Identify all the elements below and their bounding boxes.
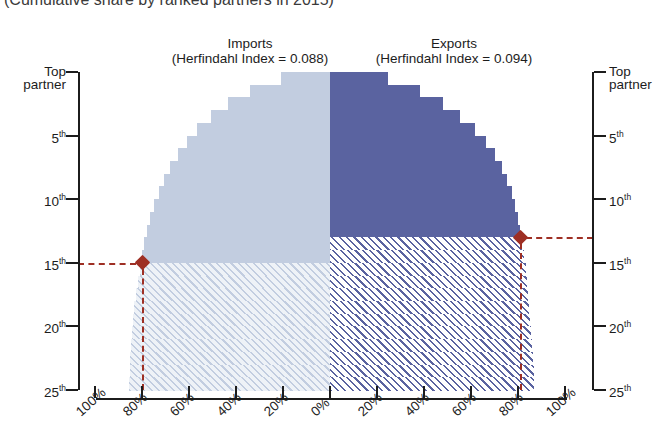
bar-exports-rank-6 — [330, 136, 486, 149]
right-y-tick — [594, 135, 606, 137]
bar-imports-rank-7 — [178, 148, 330, 161]
right-y-tick — [594, 71, 606, 73]
left-y-label-top-partner: Toppartner — [8, 66, 66, 91]
chart-figure: (Cumulative share by ranked partners in … — [0, 0, 672, 448]
bar-imports-rank-11 — [154, 199, 330, 212]
exports-panel-name: Exports — [336, 36, 572, 51]
bar-exports-rank-17 — [330, 276, 527, 289]
bar-imports-rank-4 — [211, 110, 330, 123]
x-label-20pct: 20% — [355, 390, 385, 419]
bar-exports-rank-19 — [330, 301, 529, 314]
bar-imports-rank-14 — [144, 237, 330, 250]
bar-exports-rank-4 — [330, 110, 460, 123]
x-label-40pct: 40% — [214, 390, 244, 419]
bar-imports-rank-23 — [130, 352, 330, 365]
imports-panel-name: Imports — [140, 36, 360, 51]
bar-exports-rank-20 — [330, 314, 530, 327]
left-y-tick — [66, 198, 78, 200]
bar-exports-rank-22 — [330, 339, 532, 352]
left-y-tick — [66, 262, 78, 264]
bar-exports-rank-15 — [330, 250, 524, 263]
x-label-100pct: 100% — [543, 385, 579, 419]
exports-horizontal-guide — [526, 237, 593, 239]
x-label-40pct: 40% — [402, 390, 432, 419]
bar-exports-rank-12 — [330, 212, 518, 225]
left-y-label-25th: 25th — [8, 382, 66, 399]
bar-exports-rank-9 — [330, 174, 507, 187]
bar-exports-rank-2 — [330, 85, 420, 98]
imports-horizontal-guide — [78, 263, 136, 265]
right-y-label-10th: 10th — [609, 191, 669, 208]
right-y-label-15th: 15th — [609, 255, 669, 272]
bar-imports-rank-3 — [228, 97, 330, 110]
bar-exports-rank-1 — [330, 72, 388, 85]
right-y-label-25th: 25th — [609, 382, 669, 399]
x-label-20pct: 20% — [261, 390, 291, 419]
bar-imports-rank-20 — [133, 314, 330, 327]
bar-exports-rank-24 — [330, 365, 534, 378]
x-tick — [329, 386, 331, 398]
bar-exports-rank-3 — [330, 97, 443, 110]
bar-exports-rank-13 — [330, 225, 520, 238]
imports-panel-header: Imports (Herfindahl Index = 0.088) — [140, 36, 360, 66]
bar-exports-rank-5 — [330, 123, 475, 136]
right-y-label-20th: 20th — [609, 318, 669, 335]
right-y-label-top-partner: Toppartner — [609, 66, 672, 91]
bar-imports-rank-22 — [131, 339, 330, 352]
bar-exports-rank-7 — [330, 148, 495, 161]
bar-exports-rank-21 — [330, 326, 531, 339]
x-label-60pct: 60% — [449, 390, 479, 419]
left-axis-spine — [78, 72, 80, 390]
x-label-60pct: 60% — [167, 390, 197, 419]
left-y-tick — [66, 389, 78, 391]
bar-imports-rank-21 — [132, 326, 330, 339]
imports-vertical-guide — [142, 269, 144, 390]
bar-imports-rank-13 — [147, 225, 330, 238]
exports-vertical-guide — [520, 243, 522, 390]
right-y-label-5th: 5th — [609, 128, 669, 145]
bar-imports-rank-19 — [134, 301, 330, 314]
bar-imports-rank-9 — [164, 174, 330, 187]
right-y-tick — [594, 389, 606, 391]
left-y-label-15th: 15th — [8, 255, 66, 272]
plot-area — [96, 72, 565, 390]
bar-exports-rank-11 — [330, 199, 515, 212]
bar-imports-rank-18 — [136, 288, 330, 301]
bar-imports-rank-17 — [138, 276, 330, 289]
bar-imports-rank-16 — [140, 263, 330, 276]
bar-exports-rank-16 — [330, 263, 526, 276]
right-y-tick — [594, 198, 606, 200]
x-label-100pct: 100% — [73, 385, 109, 419]
x-label-80pct: 80% — [120, 390, 150, 419]
bar-imports-rank-8 — [170, 161, 330, 174]
bar-exports-rank-14 — [330, 237, 522, 250]
bar-exports-rank-8 — [330, 161, 502, 174]
left-y-tick — [66, 71, 78, 73]
bar-imports-rank-25 — [129, 377, 330, 390]
bar-imports-rank-24 — [130, 365, 330, 378]
bar-imports-rank-1 — [281, 72, 330, 85]
left-y-label-5th: 5th — [8, 128, 66, 145]
bar-imports-rank-2 — [250, 85, 330, 98]
bar-imports-rank-15 — [142, 250, 330, 263]
exports-herfindahl-label: (Herfindahl Index = 0.094) — [336, 51, 572, 66]
x-axis-spine — [96, 398, 567, 400]
bar-exports-rank-23 — [330, 352, 533, 365]
figure-title: (Cumulative share by ranked partners in … — [0, 0, 672, 9]
left-y-tick — [66, 135, 78, 137]
left-y-label-20th: 20th — [8, 318, 66, 335]
bar-imports-rank-10 — [159, 186, 330, 199]
imports-herfindahl-label: (Herfindahl Index = 0.088) — [140, 51, 360, 66]
bar-exports-rank-10 — [330, 186, 512, 199]
right-axis-spine — [592, 72, 594, 390]
bar-exports-rank-25 — [330, 377, 534, 390]
right-y-tick — [594, 262, 606, 264]
left-y-label-10th: 10th — [8, 191, 66, 208]
exports-panel-header: Exports (Herfindahl Index = 0.094) — [336, 36, 572, 66]
bar-imports-rank-5 — [197, 123, 330, 136]
right-y-tick — [594, 325, 606, 327]
left-y-tick — [66, 325, 78, 327]
bar-imports-rank-6 — [187, 136, 330, 149]
bar-exports-rank-18 — [330, 288, 528, 301]
x-label-80pct: 80% — [496, 390, 526, 419]
